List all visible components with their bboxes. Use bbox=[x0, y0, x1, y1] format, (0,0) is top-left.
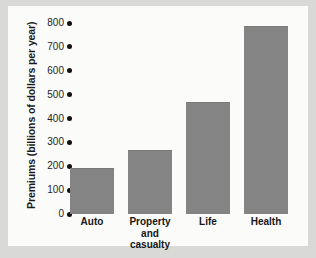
y-axis-title: Premiums (billions of dollars per year) bbox=[25, 23, 37, 209]
bar-chart-figure: Premiums (billions of dollars per year) … bbox=[0, 0, 316, 258]
bar bbox=[186, 102, 230, 214]
x-axis-category-labels: AutoProperty and casualtyLifeHealth bbox=[70, 216, 302, 256]
bar bbox=[70, 168, 114, 214]
bar-slot bbox=[186, 23, 230, 214]
bar-series bbox=[70, 23, 302, 214]
bar bbox=[128, 150, 172, 214]
x-axis-category-label: Auto bbox=[70, 216, 114, 228]
y-axis-tick-label: 400 bbox=[47, 114, 67, 124]
x-axis-category-label: Property and casualty bbox=[128, 216, 172, 251]
bar-slot bbox=[70, 23, 114, 214]
y-axis-tick-label: 800 bbox=[47, 18, 67, 28]
y-axis-tick-label: 300 bbox=[47, 137, 67, 147]
y-axis-tick-label: 200 bbox=[47, 161, 67, 171]
bar-slot bbox=[128, 23, 172, 214]
y-axis-tick-label: 0 bbox=[58, 209, 67, 219]
bar-slot bbox=[244, 23, 288, 214]
y-axis-tick-label: 700 bbox=[47, 42, 67, 52]
plot-area: 0100200300400500600700800 bbox=[70, 23, 302, 214]
y-axis-tick-label: 100 bbox=[47, 185, 67, 195]
x-axis-category-label: Life bbox=[186, 216, 230, 228]
x-axis-category-label: Health bbox=[244, 216, 288, 228]
plot-panel: Premiums (billions of dollars per year) … bbox=[8, 6, 308, 246]
y-axis-tick-label: 600 bbox=[47, 66, 67, 76]
bar bbox=[244, 26, 288, 214]
y-axis-tick-label: 500 bbox=[47, 90, 67, 100]
